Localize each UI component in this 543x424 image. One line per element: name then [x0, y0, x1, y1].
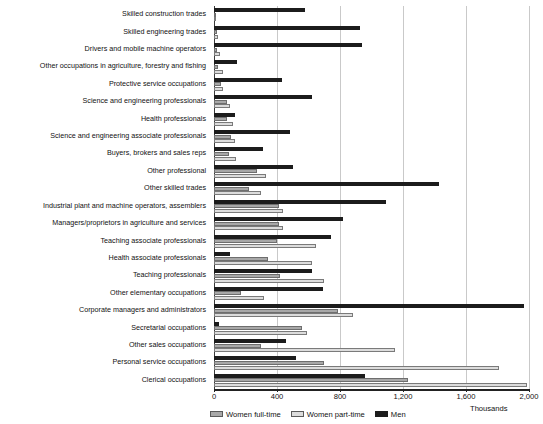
bar-wpt: [214, 313, 353, 317]
bar-men: [214, 147, 263, 151]
bar-wpt: [214, 366, 499, 370]
bar-wpt: [214, 244, 316, 248]
bar-wpt: [214, 139, 235, 143]
legend-swatch-wpt: [291, 411, 304, 417]
bar-wft: [214, 291, 241, 295]
x-tick-label: 1,600: [456, 392, 475, 402]
bar-group: [214, 215, 529, 232]
bar-group: [214, 128, 529, 145]
x-tick-label: 2,000: [519, 392, 538, 402]
bar-men: [214, 252, 230, 256]
bar-wft: [214, 48, 217, 52]
bar-wft: [214, 344, 261, 348]
bar-wpt: [214, 209, 283, 213]
bar-wpt: [214, 296, 264, 300]
grouped-bar-chart: Skilled construction tradesSkilled engin…: [0, 0, 543, 424]
bar-wft: [214, 169, 257, 173]
legend-swatch-wft: [210, 411, 223, 417]
bar-wpt: [214, 35, 218, 39]
bar-wft: [214, 222, 279, 226]
bar-wpt: [214, 104, 230, 108]
bar-wft: [214, 309, 338, 313]
bar-group: [214, 93, 529, 110]
bar-wpt: [214, 383, 527, 387]
category-label: Skilled construction trades: [122, 10, 206, 18]
gridline-2000: [529, 6, 530, 389]
category-label: Other elementary occupations: [110, 289, 206, 297]
bar-men: [214, 304, 524, 308]
bar-men: [214, 322, 219, 326]
x-tick-label: 0: [212, 392, 216, 402]
x-tick-label: 400: [271, 392, 284, 402]
bar-group: [214, 145, 529, 162]
bar-group: [214, 372, 529, 389]
category-label: Drivers and mobile machine operators: [85, 45, 206, 53]
category-label: Teaching professionals: [133, 271, 206, 279]
bar-men: [214, 200, 386, 204]
bar-wpt: [214, 226, 283, 230]
bar-men: [214, 95, 312, 99]
bar-wft: [214, 204, 279, 208]
bar-group: [214, 250, 529, 267]
bar-wft: [214, 187, 249, 191]
category-label: Buyers, brokers and sales reps: [107, 149, 206, 157]
bar-wpt: [214, 70, 223, 74]
bar-wft: [214, 361, 324, 365]
bar-men: [214, 235, 331, 239]
legend-label: Women part-time: [307, 410, 365, 419]
category-label: Science and engineering professionals: [83, 97, 206, 105]
bar-group: [214, 198, 529, 215]
bar-wft: [214, 82, 221, 86]
bar-group: [214, 267, 529, 284]
legend-item-wpt[interactable]: Women part-time: [291, 410, 365, 419]
bar-group: [214, 337, 529, 354]
bar-wft: [214, 378, 408, 382]
x-axis-baseline: [214, 389, 530, 391]
bar-men: [214, 287, 323, 291]
x-axis-tick-labels: 04008001,2001,6002,000: [214, 392, 529, 404]
bar-wft: [214, 152, 229, 156]
category-label: Science and engineering associate profes…: [50, 132, 206, 140]
x-tick-label: 1,200: [393, 392, 412, 402]
category-label: Protective service occupations: [109, 80, 206, 88]
bar-group: [214, 319, 529, 336]
bar-group: [214, 58, 529, 75]
category-label: Teaching associate professionals: [101, 237, 206, 245]
category-label: Clerical occupations: [142, 376, 206, 384]
legend-item-wft[interactable]: Women full-time: [210, 410, 281, 419]
category-label: Health professionals: [141, 115, 206, 123]
bar-rows: [214, 6, 529, 389]
bar-men: [214, 339, 286, 343]
bar-group: [214, 180, 529, 197]
bar-men: [214, 165, 293, 169]
bar-men: [214, 374, 365, 378]
category-label: Industrial plant and machine operators, …: [43, 202, 206, 210]
bar-wft: [214, 274, 280, 278]
bar-men: [214, 130, 290, 134]
bar-group: [214, 302, 529, 319]
plot-area: [214, 6, 529, 389]
bar-wpt: [214, 157, 236, 161]
bar-wft: [214, 117, 227, 121]
bar-wpt: [214, 87, 223, 91]
bar-group: [214, 163, 529, 180]
category-label: Personal service occupations: [113, 358, 207, 366]
legend-item-men[interactable]: Men: [375, 410, 406, 419]
bar-wft: [214, 65, 218, 69]
bar-group: [214, 110, 529, 127]
category-label: Other occupations in agriculture, forest…: [40, 62, 206, 70]
bar-wft: [214, 13, 216, 17]
category-label: Health associate professionals: [109, 254, 206, 262]
bar-group: [214, 6, 529, 23]
category-label: Corporate managers and administrators: [79, 306, 206, 314]
bar-men: [214, 269, 312, 273]
bar-group: [214, 232, 529, 249]
bar-men: [214, 113, 235, 117]
bar-wpt: [214, 174, 266, 178]
legend-swatch-men: [375, 411, 388, 417]
category-label: Secretarial occupations: [131, 324, 206, 332]
category-label: Managers/proprietors in agriculture and …: [52, 219, 206, 227]
bar-wpt: [214, 331, 307, 335]
x-axis-unit-label: Thousands: [470, 404, 508, 413]
bar-wft: [214, 30, 217, 34]
